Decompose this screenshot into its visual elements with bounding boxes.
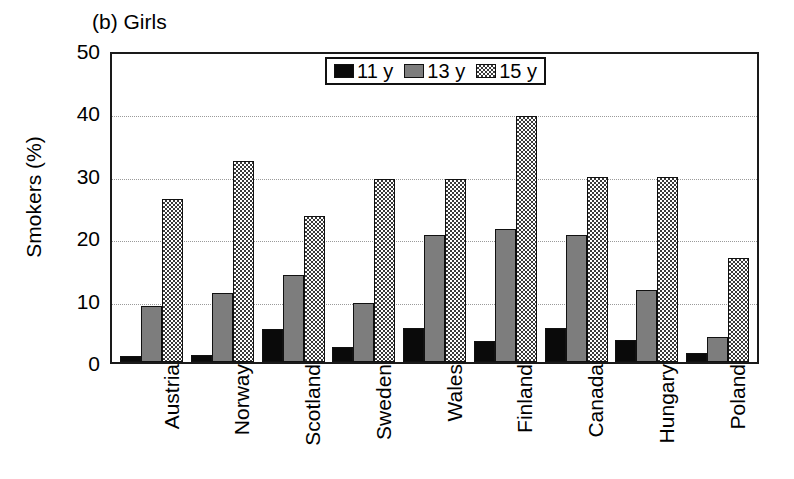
x-tick-label: Finland [513, 364, 537, 474]
legend-swatch-icon [334, 64, 354, 78]
legend-label: 13 y [427, 61, 465, 81]
chart-figure: (b) Girls Smokers (%) 50403020100 Austri… [0, 0, 794, 479]
x-tick-label: Poland [726, 364, 750, 474]
bar [141, 306, 162, 362]
y-tick-label: 20 [52, 228, 100, 249]
bar-group [332, 54, 395, 362]
bar [374, 179, 395, 362]
bar [191, 355, 212, 362]
x-tick-label: Hungary [655, 364, 679, 474]
y-tick-label: 40 [52, 103, 100, 124]
bar [162, 199, 183, 362]
legend-entry: 15 y [476, 61, 537, 81]
y-tick-label: 10 [52, 291, 100, 312]
bar [587, 177, 608, 362]
bar [545, 328, 566, 362]
x-tick-label: Wales [443, 364, 467, 474]
x-tick-label: Sweden [372, 364, 396, 474]
bar [120, 356, 141, 362]
bar-group [545, 54, 608, 362]
legend-label: 15 y [499, 61, 537, 81]
bar [566, 235, 587, 362]
bar-group [615, 54, 678, 362]
bar-group [686, 54, 749, 362]
bar [728, 258, 749, 362]
bar [615, 340, 636, 362]
y-tick-label: 50 [52, 41, 100, 62]
bar [353, 303, 374, 362]
bar [495, 229, 516, 362]
y-tick-label: 0 [52, 353, 100, 374]
x-tick-label: Canada [584, 364, 608, 474]
y-tick-label: 30 [52, 166, 100, 187]
bar [262, 329, 283, 362]
x-axis-tick-labels: AustriaNorwayScotlandSwedenWalesFinlandC… [110, 364, 759, 479]
bar [332, 347, 353, 362]
bar-group [191, 54, 254, 362]
plot-area [110, 52, 759, 364]
bar [707, 337, 728, 362]
legend-entry: 13 y [404, 61, 465, 81]
y-axis-tick-labels: 50403020100 [0, 0, 100, 479]
x-tick-label: Scotland [301, 364, 325, 474]
bar-group [262, 54, 325, 362]
chart-legend: 11 y13 y15 y [325, 57, 546, 85]
legend-label: 11 y [357, 61, 393, 81]
bar [403, 328, 424, 362]
bar-group [120, 54, 183, 362]
x-tick-label: Austria [160, 364, 184, 474]
legend-entry: 11 y [334, 61, 393, 81]
bar [304, 216, 325, 362]
bar [657, 177, 678, 362]
bar [686, 353, 707, 362]
bar-group [474, 54, 537, 362]
bar [474, 341, 495, 362]
x-tick-label: Norway [230, 364, 254, 474]
bar [424, 235, 445, 362]
bar [212, 293, 233, 362]
bar-series-container [112, 54, 757, 362]
bar [516, 116, 537, 362]
page-title: (b) Girls [92, 10, 167, 34]
bar-group [403, 54, 466, 362]
legend-swatch-icon [404, 64, 424, 78]
bar [283, 275, 304, 362]
bar [233, 161, 254, 362]
bar [445, 179, 466, 362]
bar [636, 290, 657, 362]
legend-swatch-icon [476, 64, 496, 78]
